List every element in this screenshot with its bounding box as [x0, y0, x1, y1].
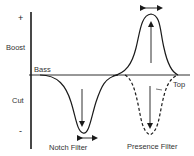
presence-filter-label: Presence Filter — [127, 143, 177, 151]
eq-curves-graphic — [0, 0, 194, 156]
boost-label: Boost — [6, 44, 25, 52]
top-leader-line — [156, 89, 162, 90]
eq-filter-diagram: + Boost Bass Cut - Top Notch Filter Pres… — [0, 0, 194, 156]
minus-label: - — [19, 127, 22, 136]
notch-filter-label: Notch Filter — [49, 144, 87, 152]
cut-label: Cut — [12, 97, 24, 105]
presence-boost-curve — [113, 14, 178, 76]
presence-cut-curve-dashed — [125, 75, 178, 135]
top-label: Top — [173, 81, 185, 89]
notch-filter-curve — [40, 75, 118, 133]
plus-label: + — [18, 14, 23, 23]
bass-label: Bass — [34, 66, 51, 74]
